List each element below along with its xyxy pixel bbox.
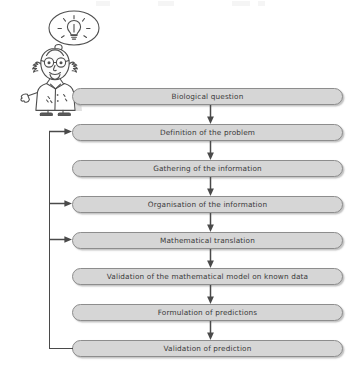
flow-step-label: Formulation of predictions: [158, 308, 257, 317]
left-hand: [21, 94, 29, 102]
cropped-caption-artifact: [158, 1, 174, 6]
flow-step-mathematical-translation[interactable]: Mathematical translation: [72, 232, 343, 249]
feedback-arrow-to-definition-problem: [49, 127, 73, 136]
flow-step-formulation-predictions[interactable]: Formulation of predictions: [72, 304, 343, 321]
feedback-loop-bottom-line: [49, 348, 73, 349]
left-shoe: [40, 113, 52, 116]
flow-step-definition-problem[interactable]: Definition of the problem: [72, 124, 343, 141]
left-arm: [28, 93, 38, 97]
connector-arrow-down: [206, 213, 215, 232]
flow-step-label: Biological question: [172, 92, 244, 101]
connector-arrow-down: [206, 285, 215, 304]
flow-step-gathering-information[interactable]: Gathering of the information: [72, 160, 343, 177]
cropped-caption-artifact: [258, 1, 265, 6]
connector-arrow-down: [206, 141, 215, 160]
figure-canvas: Biological question Definition of the pr…: [0, 0, 358, 371]
feedback-arrow-to-organisation-information: [49, 199, 73, 208]
flow-step-label: Validation of prediction: [164, 344, 252, 353]
flow-step-organisation-information[interactable]: Organisation of the information: [72, 196, 343, 213]
coat-button: [57, 100, 59, 102]
flow-step-label: Definition of the problem: [160, 128, 255, 137]
connector-arrow-down: [206, 105, 215, 124]
connector-arrow-down: [206, 249, 215, 268]
flow-step-biological-question[interactable]: Biological question: [72, 88, 343, 105]
flow-step-validation-model[interactable]: Validation of the mathematical model on …: [72, 268, 343, 285]
flow-step-validation-prediction[interactable]: Validation of prediction: [72, 340, 343, 357]
feedback-arrow-to-mathematical-translation: [49, 235, 73, 244]
flow-step-label: Validation of the mathematical model on …: [107, 272, 308, 281]
connector-arrow-down: [206, 321, 215, 340]
coat-button: [57, 94, 59, 96]
right-shoe: [58, 113, 70, 116]
flow-step-label: Mathematical translation: [160, 236, 255, 245]
cropped-caption-artifact: [232, 1, 250, 6]
connector-arrow-down: [206, 177, 215, 196]
flow-step-label: Organisation of the information: [148, 200, 267, 209]
flow-step-label: Gathering of the information: [153, 164, 262, 173]
